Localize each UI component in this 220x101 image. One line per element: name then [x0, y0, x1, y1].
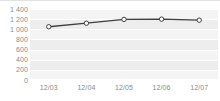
- data-point-marker[interactable]: [122, 17, 126, 21]
- y-axis-tick-label: 1 400: [0, 6, 28, 13]
- series-line-svg: [30, 9, 218, 80]
- x-axis-tick-label: 12/06: [153, 84, 171, 92]
- x-axis-tick-label: 12/07: [190, 84, 208, 92]
- line-chart-widget: 1 4001 2001 0008006004002000 12/0312/041…: [0, 0, 220, 101]
- y-axis-tick-label: 600: [0, 46, 28, 53]
- plot-area: [30, 9, 218, 80]
- y-axis-tick-label: 1 000: [0, 26, 28, 33]
- y-axis-tick-label: 200: [0, 66, 28, 73]
- data-point-marker[interactable]: [47, 25, 51, 29]
- top-divider: [0, 0, 220, 1]
- y-axis-tick-labels: 1 4001 2001 0008006004002000: [0, 0, 28, 101]
- x-axis-tick-labels: 12/0312/0412/0512/0612/07: [30, 84, 218, 96]
- data-point-marker[interactable]: [159, 17, 163, 21]
- x-axis-tick-label: 12/05: [115, 84, 133, 92]
- y-axis-tick-label: 1 200: [0, 16, 28, 23]
- data-point-marker[interactable]: [197, 18, 201, 22]
- y-axis-tick-label: 0: [0, 77, 28, 84]
- x-axis-tick-label: 12/03: [40, 84, 58, 92]
- y-axis-tick-label: 400: [0, 56, 28, 63]
- y-axis-tick-label: 800: [0, 36, 28, 43]
- x-axis-tick-label: 12/04: [77, 84, 95, 92]
- data-point-marker[interactable]: [84, 21, 88, 25]
